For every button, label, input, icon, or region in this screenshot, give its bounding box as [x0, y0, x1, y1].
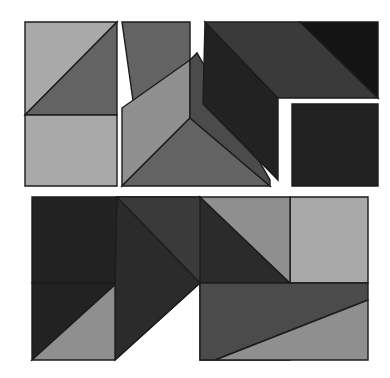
light-lower-square[interactable]	[25, 115, 117, 186]
bottom-rectangle-piece[interactable]	[32, 197, 368, 360]
puzzle-svg	[0, 0, 390, 378]
top-right-square-piece[interactable]	[292, 104, 378, 186]
light-right-upper-block[interactable]	[290, 197, 368, 283]
black-square[interactable]	[292, 104, 378, 186]
puzzle-canvas	[0, 0, 390, 378]
black-top-left-square[interactable]	[32, 197, 117, 283]
top-left-piece[interactable]	[25, 22, 117, 186]
